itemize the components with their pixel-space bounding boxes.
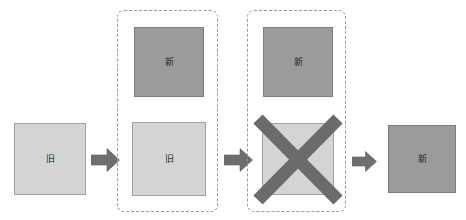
box-label-old-stage2: 旧 [165, 155, 174, 164]
box-label-new-final: 新 [418, 155, 427, 164]
box-old-initial: 旧 [14, 123, 86, 195]
box-new-final: 新 [388, 125, 456, 193]
box-old-crossed [262, 123, 334, 195]
box-label-new-stage3: 新 [294, 58, 303, 67]
box-label-new-stage2: 新 [165, 58, 174, 67]
box-old-stage2: 旧 [132, 122, 206, 196]
box-new-stage2: 新 [134, 27, 204, 97]
arrow-3-right-icon [352, 151, 377, 172]
box-new-stage3: 新 [263, 27, 333, 97]
diagram-canvas: 旧 新 旧 新 [0, 0, 466, 220]
box-label-old-initial: 旧 [46, 155, 55, 164]
arrow-1-right-icon [91, 148, 120, 172]
